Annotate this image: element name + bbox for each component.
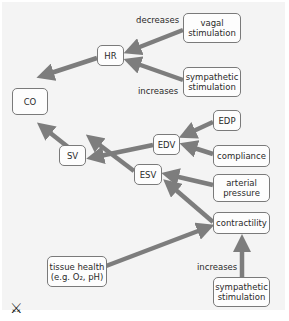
node-hr: HR (97, 45, 124, 66)
node-contractility-text: contractility (216, 218, 267, 228)
node-co: CO (12, 88, 48, 115)
node-compliance-text: compliance (217, 151, 266, 161)
node-contractility: contractility (213, 212, 270, 234)
label-increases-bottom: increases (197, 262, 237, 272)
node-arterial-pressure: arterial pressure (213, 174, 270, 202)
node-esv: ESV (134, 164, 162, 185)
node-vagal-stimulation: vagal stimulation (183, 13, 241, 43)
label-decreases: decreases (136, 15, 179, 25)
publisher-logo-icon: ⚔ (10, 300, 23, 316)
node-symp-top-text: sympathetic stimulation (184, 72, 240, 92)
node-tissue-line2: (e.g. O₂, pH) (51, 272, 104, 282)
node-co-text: CO (24, 97, 37, 107)
node-tissue-health: tissue health (e.g. O₂, pH) (47, 256, 107, 287)
node-edv: EDV (153, 134, 180, 155)
node-edv-text: EDV (158, 140, 176, 150)
node-esv-text: ESV (140, 170, 157, 180)
node-vagal-text: vagal stimulation (184, 18, 240, 38)
node-arterial-text: arterial pressure (214, 178, 269, 198)
node-symp-bottom-text: sympathetic stimulation (214, 282, 269, 302)
node-tissue-line1: tissue health (50, 262, 105, 272)
node-edp: EDP (213, 110, 241, 131)
node-hr-text: HR (104, 51, 116, 61)
node-sv-text: SV (67, 151, 78, 161)
node-sympathetic-stimulation-bottom: sympathetic stimulation (213, 277, 270, 307)
node-edp-text: EDP (218, 116, 235, 126)
node-compliance: compliance (213, 145, 270, 167)
label-increases-top: increases (138, 86, 178, 96)
node-sv: SV (59, 145, 86, 166)
node-sympathetic-stimulation-top: sympathetic stimulation (183, 67, 241, 97)
